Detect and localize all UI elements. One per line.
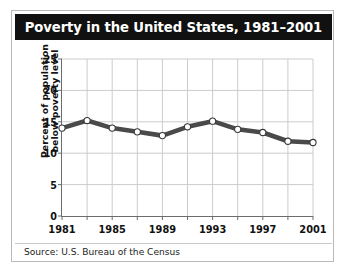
y-axis-tick-label: 15 — [44, 116, 57, 127]
data-point-marker — [84, 117, 90, 123]
y-axis-tick-label: 25 — [44, 54, 57, 65]
plot-area: 0510152025 198119851989199319972001 — [61, 59, 313, 217]
y-axis-tick-label: 0 — [50, 211, 57, 222]
x-axis-tick-label: 1993 — [199, 224, 226, 235]
data-point-marker — [159, 133, 165, 139]
footer-divider — [15, 243, 332, 244]
chart-figure: Poverty in the United States, 1981–2001 … — [11, 10, 334, 262]
y-axis-tick-label: 10 — [44, 148, 57, 159]
x-axis-tick-label: 1981 — [48, 224, 75, 235]
page-title: Poverty in the United States, 1981–2001 — [25, 20, 322, 35]
chart-panel: Percent of population below poverty leve… — [15, 40, 332, 260]
poverty-rate-series — [62, 59, 313, 216]
data-point-marker — [210, 118, 216, 124]
source-note: Source: U.S. Bureau of the Census — [24, 247, 180, 257]
data-point-marker — [310, 139, 316, 145]
x-axis-tick-label: 1997 — [249, 224, 276, 235]
data-point-marker — [134, 129, 140, 135]
data-point-marker — [260, 129, 266, 135]
x-axis-tick-label: 1989 — [149, 224, 176, 235]
data-point-marker — [235, 126, 241, 132]
y-axis-tick-label: 5 — [50, 179, 57, 190]
x-axis-tick-label: 1985 — [99, 224, 126, 235]
data-point-marker — [184, 124, 190, 130]
data-point-marker — [109, 125, 115, 131]
data-point-marker — [285, 138, 291, 144]
data-point-marker — [59, 125, 65, 131]
y-axis-tick-label: 20 — [44, 85, 57, 96]
y-axis-title-line-2: below poverty level — [50, 49, 60, 152]
x-axis-tick-label: 2001 — [299, 224, 326, 235]
